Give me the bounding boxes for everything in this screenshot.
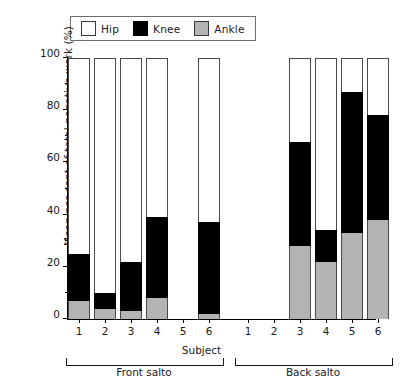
x-axis-tick — [326, 319, 327, 323]
bar-segment-ankle — [289, 246, 311, 319]
x-axis-tick-label: 3 — [297, 325, 304, 337]
chart-figure: Hip Knee Ankle Mean per cent of total ne… — [0, 0, 403, 384]
legend-item-knee: Knee — [133, 21, 180, 36]
bar-segment-ankle — [120, 311, 142, 319]
knee-swatch-icon — [133, 21, 148, 36]
x-axis-tick-label: 2 — [271, 325, 278, 337]
bar-segment-ankle — [146, 298, 168, 319]
x-axis-tick-label: 5 — [180, 325, 187, 337]
group-label-front-salto: Front salto — [116, 366, 171, 378]
legend-item-hip: Hip — [81, 21, 119, 36]
bar-stack — [68, 58, 90, 319]
y-axis-tick-label: 0 — [53, 308, 60, 320]
x-axis-tick-label: 5 — [349, 325, 356, 337]
y-axis-tick-label: 40 — [47, 204, 60, 216]
bar-stack — [289, 58, 311, 319]
y-axis-tick-label: 80 — [47, 99, 60, 111]
bar-stack — [367, 58, 389, 319]
bar-segment-ankle — [367, 220, 389, 319]
x-axis-tick — [157, 319, 158, 323]
bar-segment-ankle — [315, 262, 337, 319]
x-axis-title: Subject — [0, 344, 403, 356]
x-axis-tick — [79, 319, 80, 323]
y-axis-tick-label: 60 — [47, 151, 60, 163]
hip-swatch-icon — [81, 21, 96, 36]
x-axis-tick — [352, 319, 353, 323]
plot-area: Mean per cent of total negative work (%)… — [68, 58, 375, 319]
x-axis-tick-label: 6 — [206, 325, 213, 337]
x-axis-tick-label: 3 — [128, 325, 135, 337]
chart-legend: Hip Knee Ankle — [70, 16, 256, 41]
group-label-back-salto: Back salto — [286, 366, 340, 378]
x-axis-tick-label: 6 — [375, 325, 382, 337]
bar-stack — [146, 58, 168, 319]
y-axis-tick-label: 100 — [40, 47, 60, 59]
x-axis-tick — [300, 319, 301, 323]
bar-stack — [315, 58, 337, 319]
legend-label-ankle: Ankle — [214, 23, 244, 35]
group-bracket-front-salto — [66, 358, 224, 366]
bar-segment-knee — [198, 222, 220, 319]
x-axis-tick — [378, 319, 379, 323]
group-bracket-back-salto — [235, 358, 393, 366]
bar-segment-hip — [94, 58, 116, 319]
legend-label-hip: Hip — [101, 23, 119, 35]
bar-segment-ankle — [94, 309, 116, 319]
x-axis-tick-label: 1 — [245, 325, 252, 337]
legend-label-knee: Knee — [153, 23, 180, 35]
x-axis-tick-label: 4 — [323, 325, 330, 337]
y-axis-tick-label: 20 — [47, 256, 60, 268]
x-axis-tick — [105, 319, 106, 323]
bar-stack — [198, 58, 220, 319]
bar-segment-ankle — [68, 301, 90, 319]
x-axis-tick — [209, 319, 210, 323]
legend-item-ankle: Ankle — [194, 21, 244, 36]
x-axis-tick — [183, 319, 184, 323]
ankle-swatch-icon — [194, 21, 209, 36]
x-axis-tick-label: 1 — [76, 325, 83, 337]
x-axis-tick — [131, 319, 132, 323]
x-axis-tick — [248, 319, 249, 323]
bar-segment-ankle — [341, 233, 363, 319]
bar-stack — [341, 58, 363, 319]
bar-stack — [94, 58, 116, 319]
bar-stack — [120, 58, 142, 319]
x-axis-line — [67, 319, 376, 320]
x-axis-tick-label: 2 — [102, 325, 109, 337]
x-axis-tick-label: 4 — [154, 325, 161, 337]
x-axis-tick — [274, 319, 275, 323]
